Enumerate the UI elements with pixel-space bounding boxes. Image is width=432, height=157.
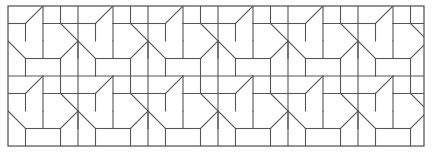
tessellation-figure	[0, 0, 432, 157]
pattern-canvas	[0, 0, 432, 157]
